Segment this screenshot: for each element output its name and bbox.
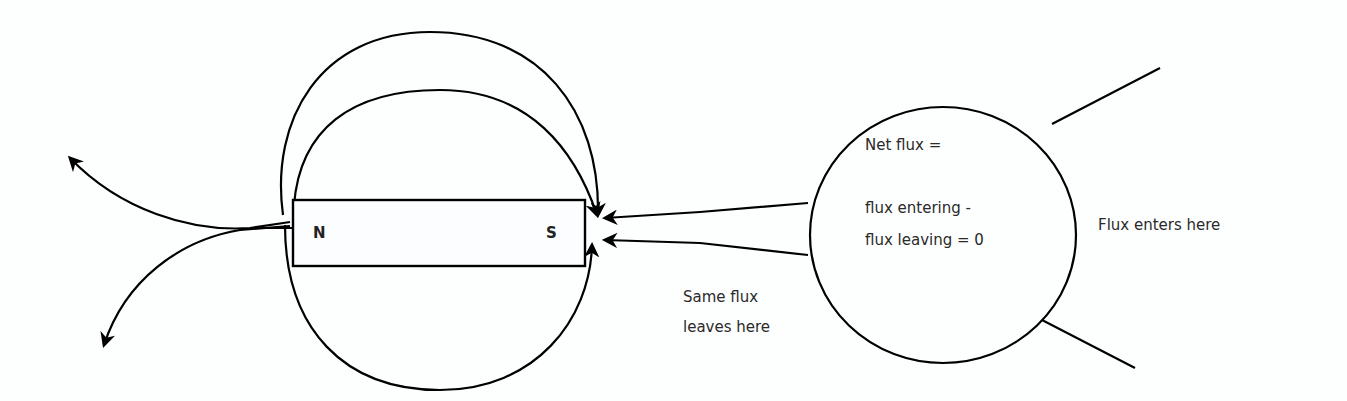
- net-flux-label: Net flux =: [865, 136, 941, 154]
- north-pole-label: N: [313, 224, 326, 242]
- bar-magnet: [293, 200, 585, 266]
- same-flux-annotation: Same flux: [683, 288, 758, 306]
- diagram-canvas: N S Net flux = flux entering - flux leav…: [0, 0, 1347, 401]
- field-line-right-upper: [1052, 68, 1160, 124]
- field-line-outer: [281, 32, 598, 215]
- field-line-left-lower: [104, 226, 290, 345]
- flux-entering-label: flux entering -: [865, 199, 971, 217]
- field-line-inner: [294, 90, 597, 215]
- leaves-here-annotation: leaves here: [683, 318, 770, 336]
- field-line-to-s-upper: [605, 203, 808, 218]
- field-line-to-s-lower: [605, 240, 808, 255]
- flux-enters-annotation: Flux enters here: [1098, 216, 1220, 234]
- south-pole-label: S: [546, 224, 557, 242]
- field-line-left-upper: [70, 158, 290, 228]
- field-line-right-lower: [1042, 320, 1135, 368]
- flux-leaving-label: flux leaving = 0: [865, 231, 984, 249]
